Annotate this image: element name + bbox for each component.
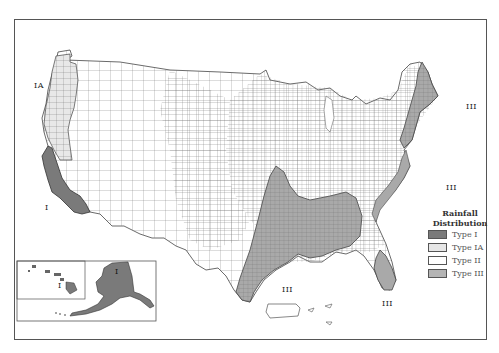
region-type-iii-florida (374, 250, 396, 290)
us-map (0, 0, 499, 353)
legend-item-type-iii: Type III (428, 267, 490, 280)
legend-title-line2: Distribution (430, 218, 490, 228)
label-i-hawaii: I (58, 281, 62, 290)
legend-item-type-i: Type I (428, 228, 490, 241)
legend-swatch-type-iii (428, 269, 447, 278)
puerto-rico (266, 304, 300, 318)
legend-title-line1: Rainfall (430, 208, 490, 218)
legend-label-type-ia: Type IA (452, 243, 483, 252)
label-iii-northeast: III (466, 102, 477, 111)
legend-item-type-ii: Type II (428, 254, 490, 267)
label-i-alaska: I (115, 267, 119, 276)
virgin-islands (308, 304, 332, 325)
legend-swatch-type-ia (428, 243, 447, 252)
legend-label-type-iii: Type III (452, 269, 484, 278)
legend: Rainfall Distribution Type I Type IA Typ… (430, 208, 490, 280)
label-iii-gulf: III (282, 285, 293, 294)
label-iii-florida: III (382, 299, 393, 308)
legend-swatch-type-i (428, 230, 447, 239)
legend-label-type-i: Type I (452, 230, 477, 239)
legend-item-type-ia: Type IA (428, 241, 490, 254)
label-ia-northwest: IA (34, 81, 44, 90)
legend-label-type-ii: Type II (452, 256, 481, 265)
label-i-california: I (45, 203, 49, 212)
label-iii-southeast-atlantic: III (446, 183, 457, 192)
legend-swatch-type-ii (428, 256, 447, 265)
